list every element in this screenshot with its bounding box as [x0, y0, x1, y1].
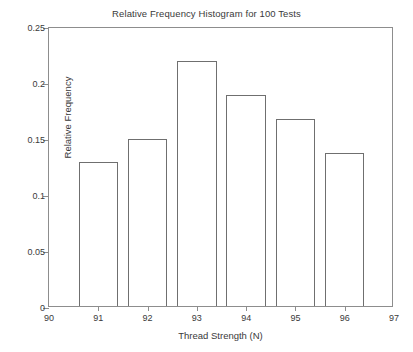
x-axis-tick-label: 97 — [389, 313, 399, 323]
plot-area: 00.050.10.150.20.25 9091929394959697 Rel… — [48, 27, 393, 307]
x-axis-tick — [246, 306, 247, 311]
histogram-bar — [325, 153, 364, 306]
y-axis-tick-label: 0.2 — [32, 79, 45, 89]
y-axis-tick-label: 0.25 — [27, 23, 45, 33]
histogram-figure: Relative Frequency Histogram for 100 Tes… — [0, 0, 413, 352]
x-axis-tick-label: 93 — [192, 313, 202, 323]
x-axis-tick-label: 90 — [44, 313, 54, 323]
histogram-bar — [128, 139, 167, 306]
y-axis-label: Relative Frequency — [62, 62, 73, 174]
x-axis-tick-label: 94 — [241, 313, 251, 323]
x-axis-tick — [197, 306, 198, 311]
x-axis-tick-label: 96 — [340, 313, 350, 323]
x-axis-label: Thread Strength (N) — [48, 330, 393, 341]
histogram-bar — [226, 95, 265, 306]
bars-layer — [49, 28, 392, 306]
y-axis-tick-label: 0.05 — [27, 247, 45, 257]
x-axis-tick — [345, 306, 346, 311]
histogram-bar — [276, 119, 315, 306]
y-axis-tick-label: 0.15 — [27, 135, 45, 145]
histogram-bar — [79, 162, 118, 306]
y-axis-tick-label: 0.1 — [32, 191, 45, 201]
x-axis-tick — [295, 306, 296, 311]
histogram-bar — [177, 61, 216, 306]
y-axis-tick-label: 0 — [40, 303, 45, 313]
x-axis-tick-label: 92 — [143, 313, 153, 323]
x-axis-tick — [98, 306, 99, 311]
x-axis-tick — [148, 306, 149, 311]
x-axis-tick-label: 91 — [93, 313, 103, 323]
chart-title: Relative Frequency Histogram for 100 Tes… — [0, 8, 413, 19]
x-axis-tick-label: 95 — [290, 313, 300, 323]
